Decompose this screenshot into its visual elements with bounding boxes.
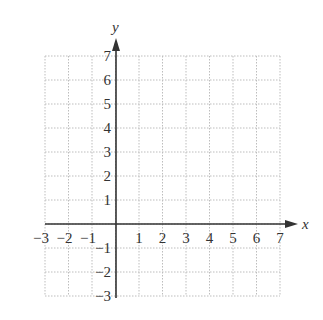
y-tick-label: −1 bbox=[95, 240, 111, 256]
y-tick-label: 1 bbox=[104, 192, 112, 208]
x-tick-label: −1 bbox=[80, 230, 96, 246]
y-axis-arrow-icon bbox=[112, 38, 120, 51]
y-tick-label: 3 bbox=[104, 144, 112, 160]
y-tick-label: −2 bbox=[95, 264, 111, 280]
x-tick-label: 2 bbox=[159, 230, 167, 246]
x-tick-label: 3 bbox=[182, 230, 190, 246]
x-tick-label: −3 bbox=[33, 230, 49, 246]
y-tick-label: 2 bbox=[104, 168, 112, 184]
x-tick-label: 5 bbox=[229, 230, 237, 246]
y-tick-label: 5 bbox=[104, 96, 112, 112]
x-axis-label: x bbox=[301, 216, 309, 232]
x-tick-label: −2 bbox=[57, 230, 73, 246]
y-tick-label: 7 bbox=[104, 48, 112, 64]
y-tick-label: 6 bbox=[104, 72, 112, 88]
x-tick-label: 7 bbox=[276, 230, 284, 246]
x-tick-labels: −3−2−11234567 bbox=[33, 230, 284, 246]
x-axis-arrow-icon bbox=[285, 220, 298, 228]
y-axis-label: y bbox=[110, 19, 119, 35]
grid-lines bbox=[45, 56, 280, 296]
x-tick-label: 6 bbox=[253, 230, 261, 246]
x-tick-label: 1 bbox=[135, 230, 143, 246]
y-tick-labels: 7654321−1−2−3 bbox=[95, 48, 111, 304]
y-tick-label: 4 bbox=[104, 120, 112, 136]
coordinate-plane: x y −3−2−11234567 7654321−1−2−3 bbox=[0, 0, 323, 320]
y-tick-label: −3 bbox=[95, 288, 111, 304]
x-tick-label: 4 bbox=[206, 230, 214, 246]
